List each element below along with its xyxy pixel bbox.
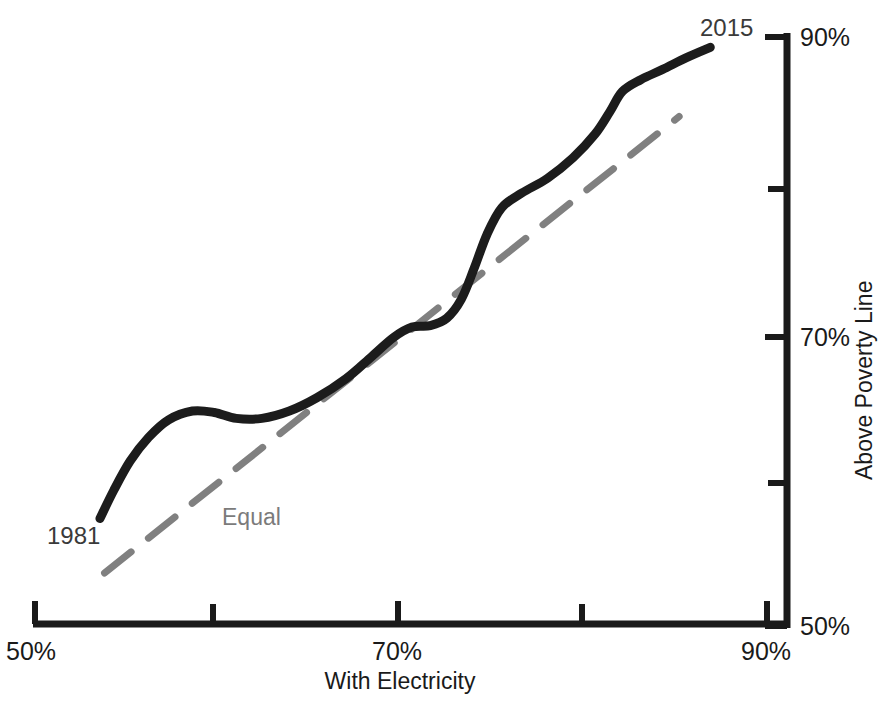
x-tick-label-90: 90% — [741, 639, 791, 664]
y-axis-title: Above Poverty Line — [853, 281, 876, 480]
y-tick-label-70: 70% — [800, 325, 850, 350]
reference-line-label-equal: Equal — [222, 506, 281, 529]
x-axis-title: With Electricity — [0, 670, 800, 693]
x-tick-label-50: 50% — [6, 639, 56, 664]
series-end-label-2015: 2015 — [700, 16, 753, 40]
data-line-electricity-poverty — [100, 47, 710, 518]
y-tick-label-90: 90% — [800, 25, 850, 50]
chart-plot-area — [0, 0, 891, 711]
series-start-label-1981: 1981 — [47, 524, 100, 548]
y-tick-label-50: 50% — [800, 614, 850, 639]
x-tick-label-70: 70% — [372, 639, 422, 664]
chart-container: 50% 70% 90% 90% 70% 50% 1981 2015 Equal … — [0, 0, 891, 711]
reference-line-equal — [105, 117, 680, 573]
